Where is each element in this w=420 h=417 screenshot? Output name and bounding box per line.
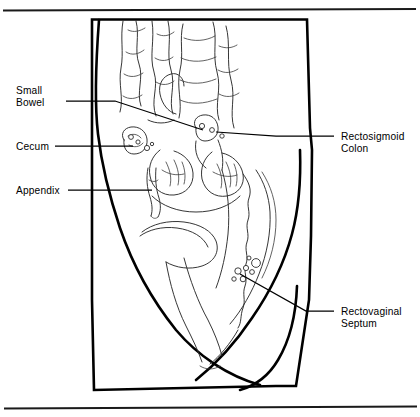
top-rule <box>3 9 416 11</box>
label-small-bowel-line2: Bowel <box>16 97 45 108</box>
label-small-bowel-line1: Small <box>16 85 42 96</box>
label-rectovaginal-line2: Septum <box>341 318 377 329</box>
label-appendix: Appendix <box>16 185 60 196</box>
anatomy-figure: Small Bowel Cecum Appendix Rectosigmoid … <box>0 0 420 417</box>
label-rectosigmoid-line2: Colon <box>341 143 368 154</box>
label-rectosigmoid-line1: Rectosigmoid <box>341 131 405 142</box>
label-cecum: Cecum <box>16 141 49 152</box>
label-rectovaginal-line1: Rectovaginal <box>341 306 402 317</box>
page-background <box>0 0 420 417</box>
